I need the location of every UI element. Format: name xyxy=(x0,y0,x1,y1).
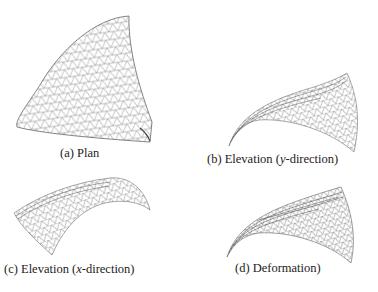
caption-title-pre: Elevation ( xyxy=(225,152,280,166)
caption-title-post: -direction) xyxy=(285,152,338,166)
caption-a: (a) Plan xyxy=(60,146,99,161)
panel-plan: (a) Plan xyxy=(0,0,189,150)
caption-label: (c) xyxy=(4,262,18,276)
caption-title: Plan xyxy=(77,146,99,160)
caption-title: Deformation) xyxy=(253,261,321,275)
caption-title-post: -direction) xyxy=(82,262,135,276)
panel-elevation-y: (b) Elevation (y-direction) xyxy=(189,60,378,170)
caption-b: (b) Elevation (y-direction) xyxy=(207,152,338,167)
caption-c: (c) Elevation (x-direction) xyxy=(4,262,135,277)
panel-elevation-x: (c) Elevation (x-direction) xyxy=(0,170,189,292)
panel-deformation: (d) Deformation) xyxy=(189,175,378,292)
caption-title-pre: Elevation ( xyxy=(21,262,76,276)
caption-d: (d) Deformation) xyxy=(235,261,321,276)
caption-label: (a) xyxy=(60,146,74,160)
plan-mesh-figure xyxy=(0,0,189,150)
caption-label: (b) xyxy=(207,152,222,166)
caption-label: (d) xyxy=(235,261,250,275)
